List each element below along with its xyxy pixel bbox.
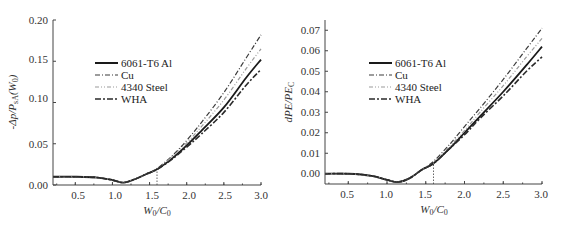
right-ytick-5: 0.05: [301, 65, 321, 77]
left-chart: 0.00 0.05 0.10 0.15 0.20 0.5 1.0 1.5 2.0…: [0, 0, 282, 229]
left-xtick-0: 0.5: [71, 189, 85, 201]
left-ytick-2: 0.10: [29, 92, 49, 104]
right-chart: 0.00 0.01 0.02 0.03 0.04 0.05 0.06 0.07 …: [282, 0, 564, 229]
right-ytick-3: 0.03: [301, 106, 321, 118]
left-ytick-0: 0.00: [29, 179, 49, 191]
legend-label-wha: WHA: [395, 93, 421, 105]
left-ticks: [53, 20, 261, 185]
left-xtick-2: 1.5: [145, 189, 159, 201]
right-ytick-2: 0.02: [301, 126, 320, 138]
right-y-axis-title: dPE/PEC: [282, 82, 296, 123]
right-ytick-0: 0.00: [301, 167, 321, 179]
left-x-axis-title: W0/C0: [143, 204, 171, 218]
right-xtick-4: 2.5: [496, 188, 510, 200]
left-xtick-4: 2.5: [218, 189, 232, 201]
right-ticks: [325, 30, 542, 184]
legend-label-cu: Cu: [121, 69, 134, 81]
left-ytick-4: 0.20: [29, 14, 49, 26]
legend-label-wha: WHA: [121, 93, 147, 105]
right-ytick-1: 0.01: [301, 147, 320, 159]
right-ytick-6: 0.06: [301, 44, 321, 56]
right-xtick-5: 3.0: [534, 188, 548, 200]
left-legend: 6061-T6 Al Cu 4340 Steel WHA: [95, 57, 172, 105]
left-ytick-1: 0.05: [29, 138, 49, 150]
right-legend: 6061-T6 Al Cu 4340 Steel WHA: [369, 57, 446, 105]
legend-label-steel: 4340 Steel: [395, 81, 442, 93]
legend-label-al: 6061-T6 Al: [121, 57, 172, 69]
left-chart-panel: 0.00 0.05 0.10 0.15 0.20 0.5 1.0 1.5 2.0…: [0, 0, 282, 229]
right-xtick-0: 0.5: [340, 188, 354, 200]
left-xtick-3: 2.0: [182, 189, 196, 201]
right-x-axis-title: W0/C0: [420, 203, 448, 217]
series-line-cu: [325, 28, 542, 182]
left-ytick-3: 0.15: [29, 53, 49, 65]
right-ytick-4: 0.04: [301, 85, 321, 97]
legend-label-cu: Cu: [395, 69, 408, 81]
right-plot-area: [325, 28, 542, 184]
legend-label-al: 6061-T6 Al: [395, 57, 446, 69]
legend-label-steel: 4340 Steel: [121, 81, 168, 93]
left-y-axis-title: -Δp/PsA(W0): [6, 74, 20, 129]
left-xtick-1: 1.0: [108, 189, 122, 201]
right-xtick-3: 2.0: [457, 188, 471, 200]
right-xtick-2: 1.5: [418, 188, 432, 200]
right-xtick-1: 1.0: [379, 188, 393, 200]
left-xtick-5: 3.0: [254, 189, 268, 201]
right-chart-panel: 0.00 0.01 0.02 0.03 0.04 0.05 0.06 0.07 …: [282, 0, 564, 229]
series-line-6061-t6-al: [53, 60, 261, 183]
right-ytick-7: 0.07: [301, 24, 321, 36]
